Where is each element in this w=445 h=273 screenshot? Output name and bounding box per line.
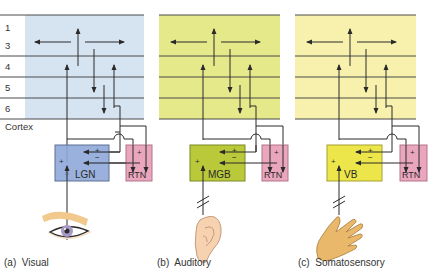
plus-sign: + — [137, 148, 142, 157]
rtn-label-visual: RTN — [128, 170, 146, 180]
ear-icon — [195, 216, 221, 262]
plus-sign: + — [410, 148, 415, 157]
minus-sign: − — [95, 153, 100, 162]
visual-cortex-bg — [25, 15, 144, 119]
rtn-label-somato: RTN — [402, 170, 420, 180]
vb-label: VB — [344, 169, 358, 180]
thalamocortical-diagram: LGN RTN + + − + — [0, 0, 445, 273]
minus-sign: − — [232, 153, 237, 162]
plus-sign: + — [331, 157, 336, 166]
mgb-label: MGB — [208, 169, 231, 180]
plus-sign: + — [195, 157, 200, 166]
hand-icon — [317, 217, 363, 261]
caption-visual: (a) Visual — [4, 257, 49, 268]
panel-visual: LGN RTN + + − + — [0, 15, 152, 240]
caption-auditory: (b) Auditory — [157, 257, 211, 268]
eye-icon — [42, 212, 92, 240]
plus-sign: + — [274, 148, 279, 157]
caption-somatosensory: (c) Somatosensory — [298, 257, 385, 268]
rtn-label-auditory: RTN — [264, 170, 282, 180]
minus-sign: − — [368, 153, 373, 162]
somato-cortex-bg — [295, 15, 416, 119]
panel-auditory: MGB RTN + + − + — [159, 15, 288, 262]
panel-somatosensory: VB RTN + + − + — [295, 15, 427, 261]
auditory-cortex-bg — [159, 15, 280, 119]
lgn-label: LGN — [75, 169, 96, 180]
plus-sign: + — [59, 157, 64, 166]
